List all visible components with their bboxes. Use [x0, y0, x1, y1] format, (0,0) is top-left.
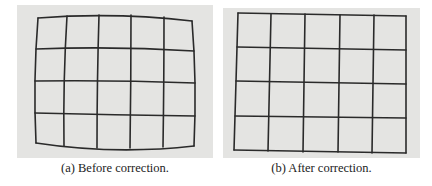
caption-after-correction: (b) After correction. [223, 161, 420, 176]
caption-before-correction: (a) Before correction. [17, 161, 213, 176]
corrected-grid-image [0, 0, 432, 186]
